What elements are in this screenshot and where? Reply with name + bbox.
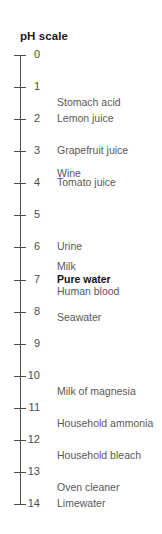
substance-label: Tomato juice <box>57 176 116 188</box>
ph-scale-figure: pH scale 01234567891011121314 Stomach ac… <box>0 0 162 534</box>
axis-tick-label-6: 6 <box>0 240 40 252</box>
axis-tick-label-9: 9 <box>0 337 40 349</box>
axis-tick-label-8: 8 <box>0 305 40 317</box>
axis-tick-label-14: 14 <box>0 497 40 509</box>
substance-label: Lemon juice <box>57 112 114 124</box>
page-title: pH scale <box>20 30 68 42</box>
substance-label: Limewater <box>57 497 105 509</box>
axis-tick-label-5: 5 <box>0 208 40 220</box>
axis-tick-label-7: 7 <box>0 273 40 285</box>
substance-label: Urine <box>57 240 82 252</box>
axis-tick-label-10: 10 <box>0 369 40 381</box>
substance-label: Grapefruit juice <box>57 144 128 156</box>
substance-label: Household bleach <box>57 449 141 461</box>
substance-label: Oven cleaner <box>57 481 119 493</box>
axis-tick-label-13: 13 <box>0 465 40 477</box>
axis-tick-label-1: 1 <box>0 80 40 92</box>
substance-label: Human blood <box>57 285 119 297</box>
axis-tick-label-2: 2 <box>0 112 40 124</box>
axis-tick-label-4: 4 <box>0 176 40 188</box>
axis-tick-label-12: 12 <box>0 433 40 445</box>
axis-tick-label-3: 3 <box>0 144 40 156</box>
axis-tick-label-11: 11 <box>0 401 40 413</box>
substance-label: Pure water <box>57 273 111 285</box>
substance-label: Stomach acid <box>57 96 121 108</box>
substance-label: Milk of magnesia <box>57 385 136 397</box>
substance-label: Milk <box>57 260 76 272</box>
substance-label: Seawater <box>57 311 101 323</box>
substance-label: Household ammonia <box>57 417 153 429</box>
axis-tick-label-0: 0 <box>0 48 40 60</box>
